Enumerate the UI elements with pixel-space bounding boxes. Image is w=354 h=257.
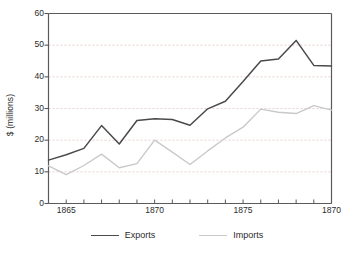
- x-axis-label-1875: 1875: [223, 205, 263, 215]
- legend-line-swatch-exports: [91, 235, 119, 236]
- x-axis-label-1865: 1865: [46, 205, 86, 215]
- x-axis-tick-labels: 1865187018751870: [0, 0, 354, 257]
- legend-label-imports: Imports: [233, 230, 263, 240]
- legend-label-exports: Exports: [125, 230, 156, 240]
- legend-item-imports[interactable]: Imports: [199, 230, 263, 240]
- legend-line-swatch-imports: [199, 235, 227, 236]
- x-axis-label-1870: 1870: [135, 205, 175, 215]
- x-axis-label-1880: 1870: [312, 205, 352, 215]
- line-chart: $ (millions) 0102030405060 1865187018751…: [0, 0, 354, 257]
- legend-item-exports[interactable]: Exports: [91, 230, 156, 240]
- chart-legend: ExportsImports: [0, 226, 354, 244]
